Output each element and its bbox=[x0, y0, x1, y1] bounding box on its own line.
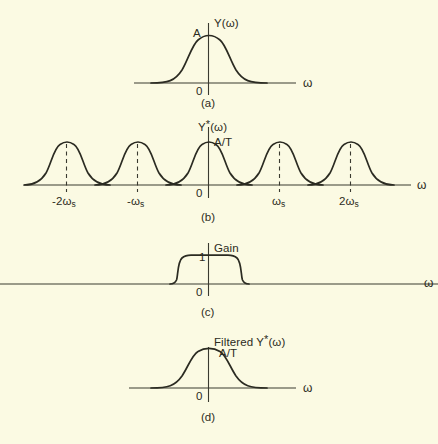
panel-c-ylabel: Gain bbox=[214, 243, 239, 255]
panel-b-tick-label-neg1: -ωs bbox=[127, 196, 144, 208]
panel-d-ylabel-arg: (ω) bbox=[268, 336, 285, 348]
panel-b-peak-label: A/T bbox=[214, 137, 232, 149]
panel-a-origin-label: 0 bbox=[196, 86, 203, 98]
panel-d-origin-label: 0 bbox=[196, 391, 203, 403]
panel-b-origin-label: 0 bbox=[196, 188, 203, 200]
panel-a-ylabel: Y(ω) bbox=[214, 18, 239, 30]
panel-d-xlabel: ω bbox=[303, 382, 312, 394]
panel-b-replica-neg2 bbox=[24, 142, 110, 185]
panel-b-ylabel-main: Y bbox=[198, 121, 206, 133]
panel-b-tick-neg1-text: -ω bbox=[127, 195, 140, 207]
panel-b-tick-pos2-sub: s bbox=[355, 199, 359, 209]
figure-container: Y(ω) A 0 ω (a) Y*(ω) A/T 0 ω -2ωs -ωs ωs… bbox=[0, 0, 438, 444]
panel-a-caption: (a) bbox=[201, 98, 215, 110]
panel-b-tick-pos2-text: 2ω bbox=[339, 195, 355, 207]
panel-b-tick-label-pos1: ωs bbox=[272, 196, 285, 208]
panel-c-xlabel: ω bbox=[424, 277, 433, 289]
panel-b-tick-neg1-sub: s bbox=[140, 199, 144, 209]
panel-b-ylabel-arg: (ω) bbox=[210, 121, 227, 133]
panel-a-peak-label: A bbox=[193, 28, 201, 40]
panel-b-tick-pos1-text: ω bbox=[272, 195, 281, 207]
panel-b-replica-neg1 bbox=[95, 142, 181, 185]
panel-b-tick-label-pos2: 2ωs bbox=[339, 196, 359, 208]
panel-b-tick-neg2-text: -2ω bbox=[52, 195, 72, 207]
panel-b-ylabel: Y*(ω) bbox=[198, 119, 227, 134]
panel-b-xlabel: ω bbox=[417, 179, 426, 191]
panel-b-replica-pos1 bbox=[237, 142, 323, 185]
panel-b-caption: (b) bbox=[201, 212, 215, 224]
panel-b-replica-pos2 bbox=[308, 142, 394, 185]
panel-c-gain-curve bbox=[170, 255, 249, 284]
panel-d-caption: (d) bbox=[201, 412, 215, 424]
panel-c-peak-label: 1 bbox=[199, 252, 206, 264]
panel-b-tick-label-neg2: -2ωs bbox=[52, 196, 76, 208]
panel-b-tick-neg2-sub: s bbox=[72, 199, 76, 209]
panel-c-origin-label: 0 bbox=[196, 287, 203, 299]
panel-c-caption: (c) bbox=[201, 307, 214, 319]
panel-d-peak-label: A/T bbox=[219, 348, 237, 360]
panel-b-tick-pos1-sub: s bbox=[281, 199, 285, 209]
panel-a-xlabel: ω bbox=[303, 77, 312, 89]
